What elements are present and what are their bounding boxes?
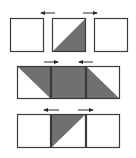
grid-cell: [95, 19, 128, 52]
row-1: [11, 13, 128, 52]
shaded-triangle: [51, 114, 86, 148]
row-2: [17, 62, 120, 99]
grid-cell: [18, 115, 51, 148]
shaded-triangle: [51, 66, 86, 99]
grid-cell: [11, 19, 44, 52]
shear-transform-diagram: [0, 0, 136, 158]
shaded-triangle: [86, 66, 120, 99]
grid-cell: [87, 115, 120, 148]
row-3: [18, 110, 120, 148]
shaded-triangle: [52, 18, 86, 52]
shaded-triangle: [17, 66, 51, 99]
